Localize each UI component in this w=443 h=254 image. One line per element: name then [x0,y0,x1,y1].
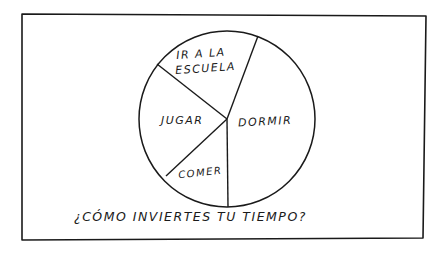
pie-chart-drawing: IR A LA ESCUELA JUGAR DORMIR COMER ¿CÓMO… [0,0,443,254]
divider-escuela-dormir [227,36,258,119]
label-escuela-line1: IR A LA [176,46,226,62]
label-jugar: JUGAR [159,114,204,127]
label-escuela-line2: ESCUELA [175,60,237,77]
label-comer: COMER [178,165,223,181]
label-dormir: DORMIR [238,114,293,130]
chart-caption: ¿CÓMO INVIERTES TU TIEMPO? [74,209,307,224]
divider-dormir-comer [227,119,228,207]
